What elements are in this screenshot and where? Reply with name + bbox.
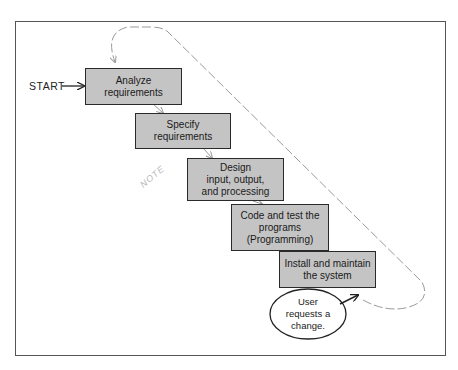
user-request-label: User requests a change. — [272, 296, 344, 332]
start-label: START — [29, 80, 65, 92]
step-label: Analyze requirements — [104, 75, 162, 99]
connector-1-2 — [153, 104, 163, 113]
step-specify-requirements: Specify requirements — [135, 113, 231, 149]
step-analyze-requirements: Analyze requirements — [85, 68, 182, 105]
step-install-and-maintain: Install and maintain the system — [279, 251, 376, 288]
connector-2-3 — [203, 148, 212, 158]
step-label: Install and maintain the system — [284, 258, 370, 282]
step-label: Specify requirements — [154, 119, 212, 143]
step-design: Design input, output, and processing — [187, 158, 284, 201]
step-code-and-test: Code and test the programs (Programming) — [231, 204, 329, 251]
step-label: Code and test the programs (Programming) — [241, 210, 320, 246]
step-label: Design input, output, and processing — [202, 162, 270, 198]
